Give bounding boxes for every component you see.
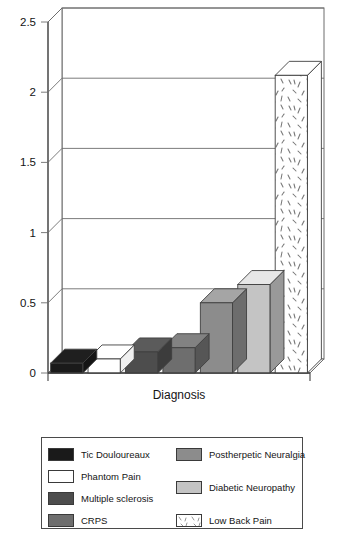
legend-label: Low Back Pain bbox=[209, 515, 272, 526]
figure-bar-chart: 2.5 2 1.5 1 0.5 0 Diagnosis Tic Douloure… bbox=[0, 0, 344, 553]
legend-swatch bbox=[176, 448, 202, 461]
legend-item: CRPS bbox=[48, 512, 107, 528]
y-tick-label: 1.5 bbox=[20, 156, 36, 168]
legend-item: Diabetic Neuropathy bbox=[176, 479, 295, 495]
legend-swatch bbox=[176, 481, 202, 494]
legend-swatch bbox=[176, 514, 202, 527]
legend-label: CRPS bbox=[81, 515, 107, 526]
legend-item: Postherpetic Neuralgia bbox=[176, 446, 305, 462]
y-axis-tick-labels: 2.5 2 1.5 1 0.5 0 bbox=[20, 16, 36, 379]
legend: Tic Douloureaux Phantom Pain Multiple sc… bbox=[41, 437, 303, 529]
y-tick-label: 2.5 bbox=[20, 16, 36, 28]
y-tick-label: 1 bbox=[30, 227, 36, 239]
y-tick-label: 0 bbox=[30, 367, 36, 379]
legend-swatch bbox=[48, 470, 74, 483]
legend-label: Diabetic Neuropathy bbox=[209, 482, 295, 493]
legend-label: Postherpetic Neuralgia bbox=[209, 449, 305, 460]
legend-item: Tic Douloureaux bbox=[48, 446, 150, 462]
legend-swatch bbox=[48, 448, 74, 461]
x-axis-label: Diagnosis bbox=[153, 388, 206, 402]
y-tick-label: 0.5 bbox=[20, 297, 36, 309]
legend-swatch bbox=[48, 492, 74, 505]
legend-item: Phantom Pain bbox=[48, 468, 141, 484]
legend-column-left: Tic Douloureaux Phantom Pain Multiple sc… bbox=[48, 438, 176, 528]
legend-swatch bbox=[48, 514, 74, 527]
legend-label: Phantom Pain bbox=[81, 471, 141, 482]
y-tick-label: 2 bbox=[30, 86, 36, 98]
legend-item: Low Back Pain bbox=[176, 512, 272, 528]
legend-label: Multiple sclerosis bbox=[81, 493, 153, 504]
legend-item: Multiple sclerosis bbox=[48, 490, 153, 506]
legend-label: Tic Douloureaux bbox=[81, 449, 150, 460]
legend-column-right: Postherpetic Neuralgia Diabetic Neuropat… bbox=[176, 438, 302, 528]
